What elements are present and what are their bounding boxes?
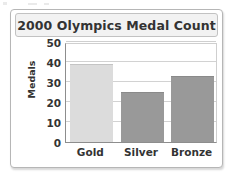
- chart-title-plate: 2000 Olympics Medal Count: [15, 13, 218, 37]
- y-tick-label: 30: [46, 78, 61, 88]
- chart-card: 2000 Olympics Medal Count Medals 0102030…: [10, 9, 223, 168]
- x-axis-tick-labels: GoldSilverBronze: [65, 146, 217, 162]
- scan-artifact: [28, 3, 37, 5]
- plot-area: Medals 01020304050 GoldSilverBronze: [15, 40, 218, 164]
- scan-artifact: [44, 3, 49, 5]
- y-axis-title: Medals: [26, 85, 37, 99]
- bar-bronze: [171, 76, 214, 142]
- chart-title: 2000 Olympics Medal Count: [17, 18, 216, 33]
- x-tick-label-gold: Gold: [77, 146, 104, 158]
- x-tick-label-bronze: Bronze: [171, 146, 212, 158]
- x-tick-label-silver: Silver: [124, 146, 158, 158]
- y-axis-tick-labels: 01020304050: [37, 40, 61, 143]
- y-tick-label: 20: [46, 98, 61, 108]
- bar-silver: [121, 92, 164, 142]
- y-tick-label: 40: [46, 58, 61, 68]
- scan-artifact: [3, 2, 7, 5]
- bar-series: [66, 44, 216, 142]
- chart-figure: 2000 Olympics Medal Count Medals 0102030…: [0, 0, 233, 180]
- gridline: [66, 41, 216, 42]
- bar-gold: [70, 64, 113, 142]
- y-tick-label: 0: [54, 138, 61, 148]
- axes-frame: [65, 43, 217, 143]
- y-tick-label: 10: [46, 118, 61, 128]
- y-tick-label: 50: [46, 38, 61, 48]
